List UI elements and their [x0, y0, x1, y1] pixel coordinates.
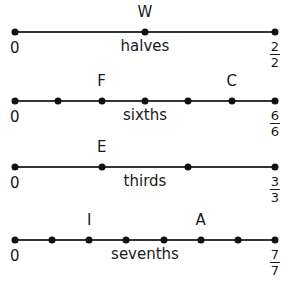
tick-dot: [49, 237, 56, 244]
end-fraction-label: 22: [270, 40, 280, 69]
point-label-i: I: [87, 213, 91, 228]
zero-label: 0: [10, 249, 20, 264]
tick-dot: [272, 98, 279, 105]
tick-dot: [272, 237, 279, 244]
line-name-label: thirds: [124, 174, 167, 189]
end-fraction-label: 77: [270, 248, 280, 277]
tick-dot: [142, 98, 149, 105]
tick-dot: [185, 164, 192, 171]
tick-dot: [86, 237, 93, 244]
tick-dot: [272, 164, 279, 171]
tick-dot: [98, 164, 105, 171]
tick-dot: [185, 98, 192, 105]
end-fraction-label: 66: [270, 109, 280, 138]
point-label-w: W: [138, 5, 153, 20]
fraction-denominator: 6: [271, 124, 279, 138]
point-label-e: E: [97, 140, 106, 155]
fraction-denominator: 3: [271, 190, 279, 204]
fraction-numerator: 7: [270, 248, 280, 263]
fraction-numerator: 3: [270, 175, 280, 190]
tick-dot: [12, 98, 19, 105]
line-name-label: halves: [121, 39, 170, 54]
line-name-label: sevenths: [111, 247, 179, 262]
number-line-thirds: [15, 166, 275, 168]
tick-dot: [142, 29, 149, 36]
line-name-label: sixths: [123, 108, 167, 123]
tick-dot: [272, 29, 279, 36]
point-label-a: A: [196, 213, 206, 228]
tick-dot: [55, 98, 62, 105]
point-label-c: C: [226, 74, 236, 89]
tick-dot: [197, 237, 204, 244]
end-fraction-label: 33: [270, 175, 280, 204]
tick-dot: [12, 164, 19, 171]
tick-dot: [12, 237, 19, 244]
zero-label: 0: [10, 110, 20, 125]
zero-label: 0: [10, 41, 20, 56]
tick-dot: [12, 29, 19, 36]
tick-dot: [123, 237, 130, 244]
fraction-numerator: 2: [270, 40, 280, 55]
point-label-f: F: [97, 74, 106, 89]
tick-dot: [234, 237, 241, 244]
tick-dot: [160, 237, 167, 244]
fraction-denominator: 7: [271, 263, 279, 277]
tick-dot: [228, 98, 235, 105]
fraction-denominator: 2: [271, 55, 279, 69]
zero-label: 0: [10, 176, 20, 191]
fraction-numerator: 6: [270, 109, 280, 124]
tick-dot: [98, 98, 105, 105]
